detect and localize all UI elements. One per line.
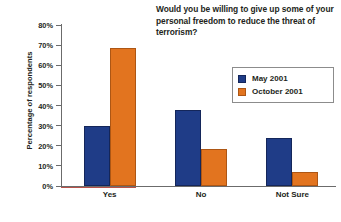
y-axis-tick-label: 0% [24,182,53,191]
y-axis-tick-label: 70% [24,41,53,50]
y-axis-tick-label: 10% [24,161,53,170]
bar-no-october-2001 [201,149,227,186]
bar-not-sure-may-2001 [266,138,292,186]
bar-chart: Would you be willing to give up some of … [0,0,341,222]
y-axis-tick-label: 80% [24,21,53,30]
y-axis-tick-label: 40% [24,101,53,110]
y-axis-tick [56,45,61,46]
y-axis-tick [56,25,61,26]
chart-legend: May 2001October 2001 [232,67,334,103]
legend-item: October 2001 [238,85,328,98]
y-axis-tick [56,165,61,166]
legend-label: October 2001 [252,87,303,96]
legend-label: May 2001 [252,74,288,83]
legend-item: May 2001 [238,72,328,85]
y-axis-tick [56,186,61,187]
x-axis-label-yes: Yes [103,190,117,199]
legend-swatch-icon [238,75,246,83]
bar-not-sure-october-2001 [292,172,318,186]
y-axis-tick [56,65,61,66]
y-axis-tick-label: 60% [24,61,53,70]
legend-swatch-icon [238,88,246,96]
bar-no-may-2001 [175,110,201,186]
x-axis-label-no: No [196,190,207,199]
x-axis-label-not-sure: Not Sure [276,190,309,199]
x-axis-accent-line [61,187,136,188]
y-axis-tick-label: 20% [24,141,53,150]
y-axis-tick-label: 50% [24,81,53,90]
plot-area [62,25,336,186]
y-axis-tick-label: 30% [24,121,53,130]
bar-yes-october-2001 [110,48,136,186]
y-axis-tick [56,85,61,86]
bar-yes-may-2001 [84,126,110,186]
y-axis-tick [56,105,61,106]
y-axis-tick [56,145,61,146]
y-axis-tick [56,125,61,126]
